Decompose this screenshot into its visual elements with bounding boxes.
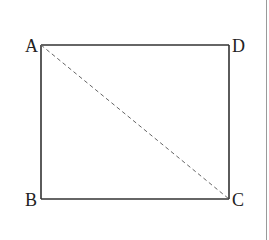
vertex-label-D: D	[232, 36, 245, 56]
vertex-label-A: A	[25, 36, 38, 56]
page-edge-divider	[266, 0, 267, 240]
vertex-label-B: B	[25, 190, 37, 210]
vertex-label-C: C	[232, 190, 244, 210]
rectangle-diagram: A D B C	[0, 0, 269, 240]
diagonal-AC	[41, 45, 229, 199]
